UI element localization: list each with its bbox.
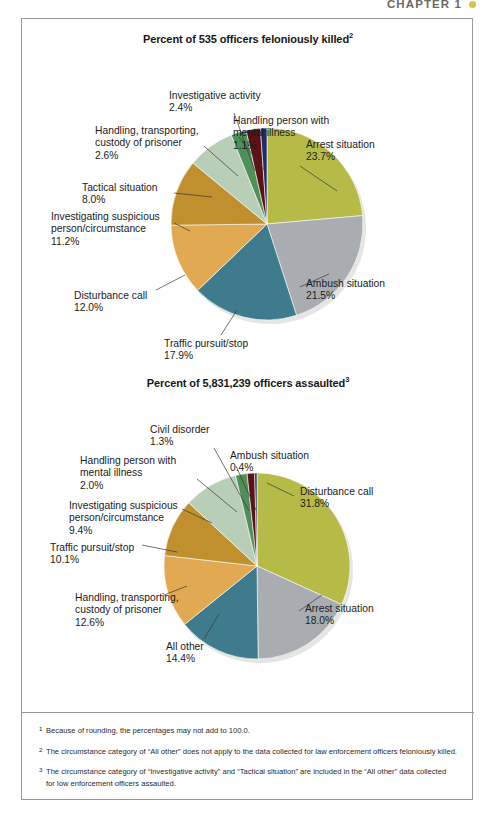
pie-slice-name: Investigative activity (169, 90, 261, 102)
running-head-dot-icon (469, 1, 476, 8)
figure-frame: Percent of 535 officers feloniously kill… (21, 18, 473, 800)
pie-slice-name: Tactical situation (82, 182, 158, 194)
pie-slice-name: Traffic pursuit/stop (50, 542, 134, 554)
pie-slice-label: Disturbance call12.0% (74, 290, 147, 315)
pie-slice-label: Investigating suspiciousperson/circumsta… (69, 500, 178, 537)
pie-slice-value: 8.0% (82, 194, 158, 206)
pie-slice-label: All other14.4% (166, 641, 204, 666)
pie-slice-value: 1.1% (233, 140, 329, 152)
pie-slice-name: Ambush situation (230, 450, 309, 462)
pie-slice-value: 9.4% (69, 525, 178, 537)
pie-slice-name: Arrest situation (305, 603, 374, 615)
footnote: 3The circumstance category of “Investiga… (39, 766, 457, 789)
pie-slice-label: Handling person withmental illness1.1% (233, 115, 329, 152)
pie-slice-name: mental illness (80, 467, 176, 479)
footnote: 2The circumstance category of “All other… (39, 746, 457, 757)
pie-slice-name: Ambush situation (306, 278, 385, 290)
pie-slice-label: Investigating suspiciousperson/circumsta… (51, 211, 160, 248)
pie-slice-name: custody of prisoner (75, 604, 179, 616)
pie-slice-value: 12.6% (75, 617, 179, 629)
footnote-text: The circumstance category of “All other”… (46, 747, 457, 756)
footnote-text: Because of rounding, the percentages may… (46, 726, 250, 735)
pie-slice-label: Disturbance call31.8% (300, 486, 373, 511)
pie-slice-value: 0.4% (230, 462, 309, 474)
pie-slice-value: 14.4% (166, 653, 204, 665)
pie-slice-name: Investigating suspicious (69, 500, 178, 512)
pie-slice-value: 10.1% (50, 554, 134, 566)
footnote-marker: 1 (39, 723, 42, 734)
pie-slice-name: Disturbance call (300, 486, 373, 498)
footnote-text: The circumstance category of “Investigat… (46, 767, 446, 787)
pie-slice-label: Handling, transporting,custody of prison… (95, 125, 199, 162)
pie-slice-value: 2.4% (169, 102, 261, 114)
pie-slice-label: Civil disorder1.3% (150, 424, 210, 449)
pie-slice-name: Handling, transporting, (95, 125, 199, 137)
pie-slice-name: Disturbance call (74, 290, 147, 302)
pie-slice-value: 18.0% (305, 615, 374, 627)
pie-slice-value: 1.3% (150, 436, 210, 448)
pie-slice-value: 2.6% (95, 150, 199, 162)
pie-slice-label: Traffic pursuit/stop17.9% (164, 338, 248, 363)
pie-slice-value: 21.5% (306, 290, 385, 302)
pie-slice-name: Handling, transporting, (75, 592, 179, 604)
running-head-label: CHAPTER 1 (387, 0, 462, 10)
chart-two-plot-area: Disturbance call31.8%Arrest situation18.… (22, 371, 474, 709)
pie-slice-name: All other (166, 641, 204, 653)
leader-line (156, 275, 185, 290)
pie-slice-value: 23.7% (306, 151, 375, 163)
pie-slice-label: Tactical situation8.0% (82, 182, 158, 207)
pie-slice-name: person/circumstance (51, 223, 160, 235)
footnote-marker: 3 (39, 764, 42, 775)
pie-slice-label: Investigative activity2.4% (169, 90, 261, 115)
pie-slice-name: custody of prisoner (95, 137, 199, 149)
pie-slice-label: Handling, transporting,custody of prison… (75, 592, 179, 629)
pie-slice-label: Ambush situation0.4% (230, 450, 309, 475)
pie-slice-name: Investigating suspicious (51, 211, 160, 223)
pie-slice-name: person/circumstance (69, 512, 178, 524)
pie-slice-label: Ambush situation21.5% (306, 278, 385, 303)
footnotes: 1Because of rounding, the percentages ma… (22, 712, 474, 799)
chart-officers-assaulted: Percent of 5,831,239 officers assaulted3… (22, 371, 474, 709)
pie-slice-name: Traffic pursuit/stop (164, 338, 248, 350)
running-head: CHAPTER 1 (387, 0, 476, 11)
pie-slice-label: Traffic pursuit/stop10.1% (50, 542, 134, 567)
pie-slice-name: Handling person with (233, 115, 329, 127)
pie-slice-value: 12.0% (74, 302, 147, 314)
chart-officers-feloniously-killed: Percent of 535 officers feloniously kill… (22, 19, 474, 371)
pie-slice-value: 17.9% (164, 350, 248, 362)
footnote: 1Because of rounding, the percentages ma… (39, 725, 457, 736)
pie-slice-label: Arrest situation18.0% (305, 603, 374, 628)
pie-slice-name: Civil disorder (150, 424, 210, 436)
pie-slice-name: Handling person with (80, 455, 176, 467)
pie-slice-name: mental illness (233, 127, 329, 139)
pie-slice-label: Handling person withmental illness2.0% (80, 455, 176, 492)
chart-one-plot-area: Arrest situation23.7%Ambush situation21.… (22, 19, 474, 371)
pie-slice-value: 2.0% (80, 480, 176, 492)
footnote-marker: 2 (39, 744, 42, 755)
pie-slice-value: 11.2% (51, 236, 160, 248)
pie-slice-value: 31.8% (300, 498, 373, 510)
